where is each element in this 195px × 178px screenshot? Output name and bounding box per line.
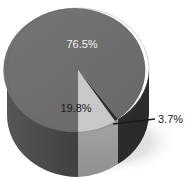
slice-2-label: 19.8% (60, 102, 91, 114)
pie-chart-canvas: 76.5% 19.8% 3.7% (0, 0, 195, 178)
slice-1-label: 76.5% (66, 38, 97, 50)
pie-chart: 76.5% 19.8% 3.7% (0, 0, 195, 178)
slice-3-label: 3.7% (158, 113, 183, 125)
